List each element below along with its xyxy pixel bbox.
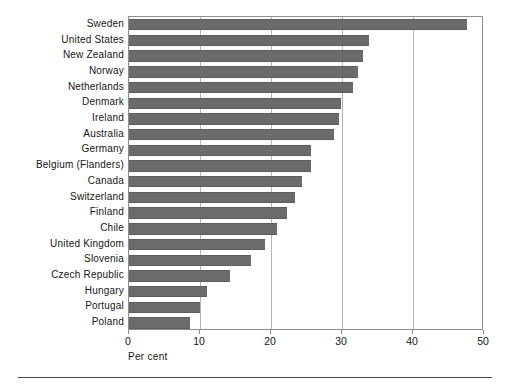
bar-row	[129, 253, 484, 269]
x-tick-label-10: 10	[184, 335, 214, 347]
value-axis-ticks: 01020304050	[128, 330, 484, 348]
bar-new-zealand	[129, 50, 363, 61]
category-label-czech-republic: Czech Republic	[0, 269, 124, 280]
bar-portugal	[129, 302, 200, 313]
category-label-united-kingdom: United Kingdom	[0, 238, 124, 249]
bar-netherlands	[129, 82, 353, 93]
bar-row	[129, 80, 484, 96]
bar-ireland	[129, 113, 339, 124]
bar-row	[129, 158, 484, 174]
x-tick-label-50: 50	[468, 335, 498, 347]
bar-germany	[129, 145, 311, 156]
category-label-new-zealand: New Zealand	[0, 49, 124, 60]
plot-area	[128, 16, 483, 330]
category-label-ireland: Ireland	[0, 112, 124, 123]
bar-united-kingdom	[129, 239, 265, 250]
bar-row	[129, 127, 484, 143]
bar-poland	[129, 317, 190, 328]
bar-series	[129, 17, 482, 329]
chart-figure: SwedenUnited StatesNew ZealandNorwayNeth…	[0, 0, 510, 389]
x-tick-mark-10	[199, 330, 200, 334]
bar-belgium-flanders	[129, 160, 311, 171]
bar-row	[129, 111, 484, 127]
bar-denmark	[129, 98, 341, 109]
category-label-canada: Canada	[0, 175, 124, 186]
x-tick-label-40: 40	[397, 335, 427, 347]
bar-row	[129, 237, 484, 253]
category-label-denmark: Denmark	[0, 96, 124, 107]
category-label-australia: Australia	[0, 128, 124, 139]
x-tick-label-30: 30	[326, 335, 356, 347]
bar-slovenia	[129, 255, 251, 266]
bar-row	[129, 205, 484, 221]
x-tick-mark-0	[128, 330, 129, 334]
bar-row	[129, 143, 484, 159]
bar-row	[129, 190, 484, 206]
bar-row	[129, 96, 484, 112]
category-label-netherlands: Netherlands	[0, 81, 124, 92]
category-label-sweden: Sweden	[0, 18, 124, 29]
bar-canada	[129, 176, 302, 187]
bar-australia	[129, 129, 334, 140]
category-label-norway: Norway	[0, 65, 124, 76]
bar-sweden	[129, 19, 467, 30]
x-tick-mark-50	[483, 330, 484, 334]
category-label-united-states: United States	[0, 34, 124, 45]
category-label-belgium-flanders: Belgium (Flanders)	[0, 159, 124, 170]
bar-row	[129, 284, 484, 300]
category-label-hungary: Hungary	[0, 285, 124, 296]
bar-row	[129, 17, 484, 33]
bar-row	[129, 221, 484, 237]
x-tick-mark-40	[412, 330, 413, 334]
category-label-chile: Chile	[0, 222, 124, 233]
bar-switzerland	[129, 192, 295, 203]
category-label-germany: Germany	[0, 143, 124, 154]
bar-finland	[129, 207, 287, 218]
category-label-finland: Finland	[0, 206, 124, 217]
x-tick-label-20: 20	[255, 335, 285, 347]
x-tick-label-0: 0	[113, 335, 143, 347]
x-tick-mark-20	[270, 330, 271, 334]
category-axis-labels: SwedenUnited StatesNew ZealandNorwayNeth…	[0, 16, 124, 330]
bar-row	[129, 48, 484, 64]
category-label-poland: Poland	[0, 316, 124, 327]
footer-divider	[18, 377, 492, 378]
category-label-switzerland: Switzerland	[0, 191, 124, 202]
bar-united-states	[129, 35, 369, 46]
x-tick-mark-30	[341, 330, 342, 334]
category-label-portugal: Portugal	[0, 300, 124, 311]
bar-row	[129, 300, 484, 316]
bar-row	[129, 33, 484, 49]
bar-row	[129, 64, 484, 80]
bar-row	[129, 174, 484, 190]
bar-czech-republic	[129, 270, 230, 281]
bar-norway	[129, 66, 358, 77]
bar-row	[129, 268, 484, 284]
x-axis-title: Per cent	[128, 351, 168, 363]
bar-chile	[129, 223, 277, 234]
category-label-slovenia: Slovenia	[0, 253, 124, 264]
bar-row	[129, 315, 484, 331]
bar-hungary	[129, 286, 207, 297]
